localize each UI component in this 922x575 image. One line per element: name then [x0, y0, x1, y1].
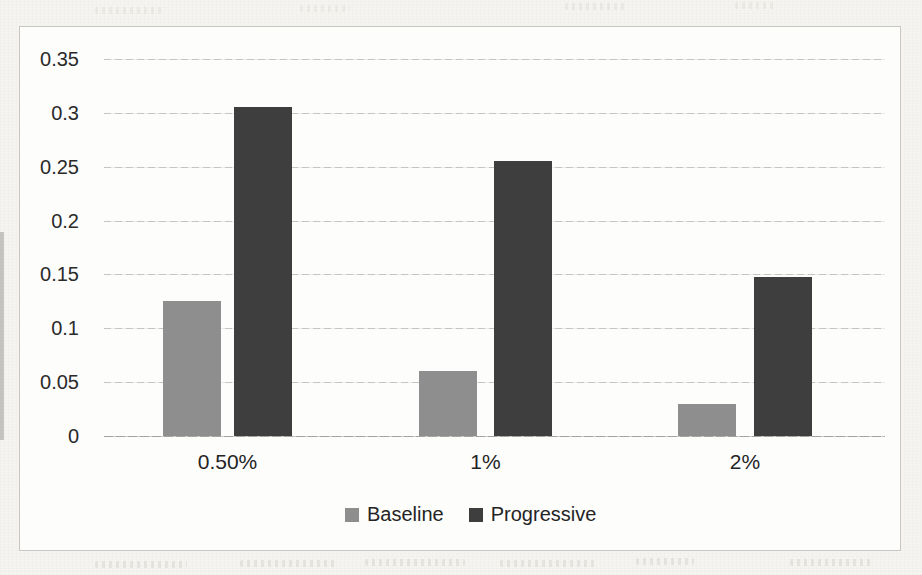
- x-axis-category-label: 0.50%: [158, 450, 298, 474]
- scan-artifact: [636, 558, 694, 565]
- legend-marker-baseline: [345, 508, 359, 522]
- legend-item-progressive: Progressive: [469, 503, 597, 526]
- legend-marker-progressive: [469, 508, 483, 522]
- y-axis-tick-label: 0.25: [20, 156, 79, 178]
- bar-progressive-2%: [754, 277, 812, 436]
- scan-artifact: [565, 3, 625, 10]
- scan-artifact: [790, 559, 872, 566]
- bar-baseline-0.50%: [163, 301, 221, 436]
- y-axis-tick-label: 0.15: [20, 263, 79, 285]
- scan-artifact: [0, 232, 4, 440]
- bar-progressive-0.50%: [234, 107, 292, 436]
- y-axis-tick-label: 0.35: [20, 48, 79, 70]
- gridline: [104, 59, 885, 60]
- x-axis-category-label: 2%: [675, 450, 815, 474]
- bar-baseline-2%: [678, 404, 736, 436]
- gridline: [104, 436, 885, 437]
- chart-frame: 0.350.30.250.20.150.10.050 0.50%1%2% Bas…: [19, 26, 901, 551]
- scan-artifact: [240, 560, 336, 567]
- legend: BaselineProgressive: [345, 503, 596, 526]
- legend-label: Baseline: [367, 503, 444, 526]
- y-axis-tick-label: 0.2: [20, 210, 79, 232]
- scan-artifact: [365, 559, 465, 566]
- y-axis-tick-label: 0.3: [20, 102, 79, 124]
- bar-baseline-1%: [419, 371, 477, 436]
- scan-artifact: [95, 561, 187, 568]
- gridline: [104, 113, 885, 114]
- scanned-page: 0.350.30.250.20.150.10.050 0.50%1%2% Bas…: [0, 0, 922, 575]
- bar-progressive-1%: [494, 161, 552, 436]
- scan-artifact: [500, 560, 595, 567]
- x-axis-category-label: 1%: [416, 450, 556, 474]
- y-axis-tick-label: 0.05: [20, 371, 79, 393]
- scan-artifact: [300, 5, 350, 12]
- legend-item-baseline: Baseline: [345, 503, 444, 526]
- scan-artifact: [95, 7, 165, 14]
- y-axis-tick-label: 0.1: [20, 317, 79, 339]
- y-axis-tick-label: 0: [20, 425, 79, 447]
- scan-artifact: [735, 2, 777, 9]
- legend-label: Progressive: [491, 503, 597, 526]
